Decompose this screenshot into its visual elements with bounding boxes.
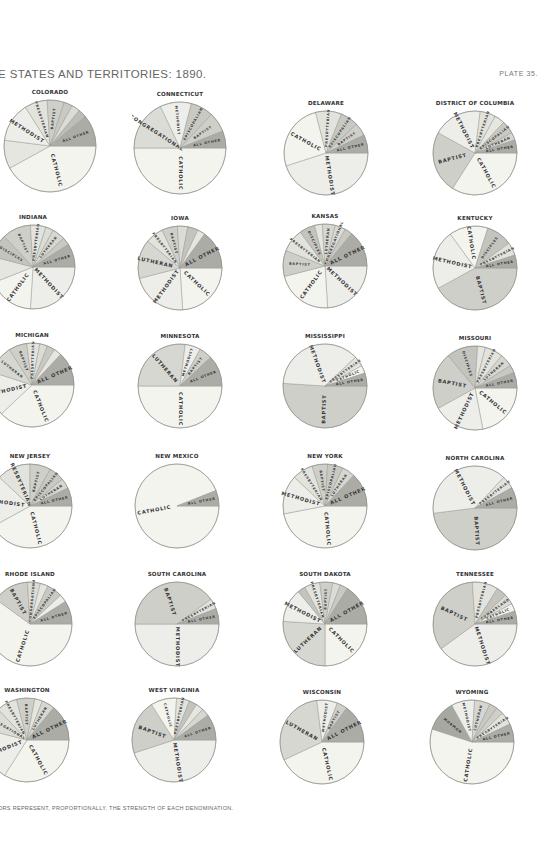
pie-chart-north-carolina: NORTH CAROLINABAPTISTMETHODISTPRESBYTERI… — [431, 455, 519, 570]
pie-title: WISCONSIN — [278, 689, 366, 695]
pie-chart-indiana: INDIANAMETHODISTCATHOLICDISCIPLESBAPTIST… — [0, 214, 77, 329]
pie-chart-washington: WASHINGTONCATHOLICMETHODISTCONGREGATIONA… — [0, 687, 71, 802]
pie-chart-wisconsin: WISCONSINCATHOLICLUTHERANMETHODISTBAPTIS… — [278, 689, 366, 804]
pie-svg: METHODISTCATHOLICPRESBYTERIANEPISCOPALIA… — [282, 109, 370, 197]
pie-title: NEW YORK — [281, 453, 369, 459]
pie-svg: CATHOLICBAPTISTMETHODISTPRESBYTERIANEPIS… — [431, 109, 519, 197]
pie-chart-mississippi: MISSISSIPPIBAPTISTMETHODISTPRESBYTERIANC… — [281, 333, 369, 448]
pie-chart-missouri: MISSOURICATHOLICMETHODISTBAPTISTDISCIPLE… — [431, 335, 519, 450]
pie-chart-kentucky: KENTUCKYBAPTISTMETHODISTCATHOLICDISCIPLE… — [431, 215, 519, 330]
pie-svg: BAPTISTMETHODISTCATHOLICDISCIPLESPRESBYT… — [431, 224, 519, 312]
pie-chart-connecticut: CONNECTICUTCATHOLICCONGREGATIONALMETHODI… — [132, 91, 228, 206]
pie-svg: METHODISTCATHOLICDISCIPLESBAPTISTPRESBYT… — [0, 223, 77, 311]
pie-title: DELAWARE — [282, 100, 370, 106]
pie-svg: METHODISTBAPTISTPRESBYTERIANALL OTHER — [133, 580, 221, 668]
pie-title: MISSISSIPPI — [281, 333, 369, 339]
pie-chart-district-of-columbia: DISTRICT OF COLUMBIACATHOLICBAPTISTMETHO… — [431, 100, 519, 215]
pie-svg: BAPTISTMETHODISTPRESBYTERIANALL OTHER — [431, 464, 519, 552]
pie-chart-new-york: NEW YORKCATHOLICMETHODISTPRESBYTERIANBAP… — [281, 453, 369, 568]
pie-title: MICHIGAN — [0, 332, 76, 338]
pie-chart-minnesota: MINNESOTACATHOLICLUTHERANMETHODISTBAPTIS… — [136, 333, 224, 448]
pie-title: IOWA — [136, 215, 224, 221]
pie-chart-wyoming: WYOMINGCATHOLICMORMONMETHODISTLUTHERANPR… — [428, 689, 516, 804]
pie-title: NEW JERSEY — [0, 453, 74, 459]
pie-chart-south-dakota: SOUTH DAKOTACATHOLICLUTHERANMETHODISTPRE… — [281, 571, 369, 686]
pie-svg: CATHOLICLUTHERANMETHODISTPRESBYTERIANBAP… — [281, 580, 369, 668]
pie-chart-tennessee: TENNESSEEMETHODISTBAPTISTPRESBYTERIANCUM… — [431, 571, 519, 686]
page-title: E STATES AND TERRITORIES: 1890. — [0, 68, 206, 80]
pie-title: CONNECTICUT — [132, 91, 228, 97]
footer-note: ORS REPRESENT, PROPORTIONALLY, THE STREN… — [0, 805, 233, 811]
pie-svg: CATHOLICCONGREGATIONALMETHODISTEPISCOPAL… — [132, 100, 228, 196]
pie-chart-rhode-island: RHODE ISLANDCATHOLICBAPTISTCONGREGATIONA… — [0, 571, 74, 686]
pie-svg: CATHOLICMETHODISTPRESBYTERIANBAPTISTALL … — [2, 98, 98, 194]
pie-svg: CATHOLICMETHODISTPRESBYTERIANBAPTISTEPIS… — [0, 462, 74, 550]
pie-chart-colorado: COLORADOCATHOLICMETHODISTPRESBYTERIANBAP… — [2, 89, 98, 204]
plate-number: PLATE 35. — [499, 70, 538, 77]
pie-svg: METHODISTBAPTISTPRESBYTERIANCUMBERLANDCA… — [431, 580, 519, 668]
pie-svg: CATHOLICLUTHERANMETHODISTBAPTISTALL OTHE… — [136, 342, 224, 430]
slice-label: BAPTIST — [24, 704, 29, 726]
pie-title: DISTRICT OF COLUMBIA — [431, 100, 519, 106]
pie-title: KENTUCKY — [431, 215, 519, 221]
pie-title: SOUTH CAROLINA — [133, 571, 221, 577]
pie-chart-delaware: DELAWAREMETHODISTCATHOLICPRESBYTERIANEPI… — [282, 100, 370, 215]
pie-title: NEW MEXICO — [133, 453, 221, 459]
pie-title: KANSAS — [281, 213, 369, 219]
pie-svg: CATHOLICMORMONMETHODISTLUTHERANPRESBYTER… — [428, 698, 516, 786]
pie-svg: CATHOLICMETHODISTLUTHERANBAPTISTPRESBYTE… — [0, 341, 76, 429]
pie-chart-new-mexico: NEW MEXICOCATHOLICALL OTHER — [133, 453, 221, 568]
pie-title: COLORADO — [2, 89, 98, 95]
pie-chart-michigan: MICHIGANCATHOLICMETHODISTLUTHERANBAPTIST… — [0, 332, 76, 447]
pie-svg: CATHOLICMETHODISTCONGREGATIONALPRESBYTER… — [0, 696, 71, 784]
pie-svg: BAPTISTMETHODISTPRESBYTERIANCATHOLICALL … — [281, 342, 369, 430]
pie-title: NORTH CAROLINA — [431, 455, 519, 461]
slice-label: BAPTIST — [320, 394, 327, 423]
slice-label: CATHOLIC — [178, 392, 184, 426]
slice-label: BAPTIST — [323, 588, 328, 610]
pie-svg: METHODISTCATHOLICBAPTISTPRESBYTERIANDISC… — [281, 222, 369, 310]
pie-title: TENNESSEE — [431, 571, 519, 577]
slice-label: METHODIST — [175, 627, 181, 667]
pie-title: SOUTH DAKOTA — [281, 571, 369, 577]
slice-label: CATHOLIC — [178, 156, 184, 190]
pie-title: WASHINGTON — [0, 687, 71, 693]
pie-svg: METHODISTBAPTISTCATHOLICPRESBYTERIANALL … — [130, 696, 218, 784]
pie-title: WEST VIRGINIA — [130, 687, 218, 693]
pie-svg: CATHOLICALL OTHER — [133, 462, 221, 550]
pie-title: RHODE ISLAND — [0, 571, 74, 577]
pie-chart-kansas: KANSASMETHODISTCATHOLICBAPTISTPRESBYTERI… — [281, 213, 369, 328]
pie-chart-south-carolina: SOUTH CAROLINAMETHODISTBAPTISTPRESBYTERI… — [133, 571, 221, 686]
pie-title: MISSOURI — [431, 335, 519, 341]
pie-title: INDIANA — [0, 214, 77, 220]
pie-title: WYOMING — [428, 689, 516, 695]
pie-title: MINNESOTA — [136, 333, 224, 339]
pie-chart-west-virginia: WEST VIRGINIAMETHODISTBAPTISTCATHOLICPRE… — [130, 687, 218, 802]
pie-svg: CATHOLICMETHODISTLUTHERANPRESBYTERIANBAP… — [136, 224, 224, 312]
pie-chart-iowa: IOWACATHOLICMETHODISTLUTHERANPRESBYTERIA… — [136, 215, 224, 330]
pie-chart-new-jersey: NEW JERSEYCATHOLICMETHODISTPRESBYTERIANB… — [0, 453, 74, 568]
pie-svg: CATHOLICMETHODISTPRESBYTERIANBAPTISTEPIS… — [281, 462, 369, 550]
pie-svg: CATHOLICBAPTISTCONGREGATIONALEPISCOPALIA… — [0, 580, 74, 668]
pie-svg: CATHOLICLUTHERANMETHODISTBAPTISTALL OTHE… — [278, 698, 366, 786]
pie-svg: CATHOLICMETHODISTBAPTISTDISCIPLESPRESBYT… — [431, 344, 519, 432]
